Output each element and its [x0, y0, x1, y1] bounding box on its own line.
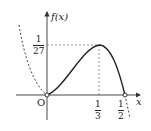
max-value-label: 1 27 — [33, 35, 44, 56]
function-label: f(x) — [51, 12, 68, 22]
tick-num: 1 — [118, 100, 124, 109]
curve-solid — [47, 45, 125, 95]
open-point-half — [123, 93, 127, 97]
tick-den: 3 — [95, 112, 101, 121]
open-point-origin — [45, 93, 49, 97]
function-graph — [0, 0, 151, 131]
max-num: 1 — [36, 35, 42, 44]
x-tick-one-half: 1 2 — [118, 100, 124, 121]
x-axis-label: x — [136, 97, 142, 107]
x-tick-one-third: 1 3 — [95, 100, 101, 121]
curve-dashed-right — [125, 95, 130, 118]
max-den: 27 — [33, 47, 44, 56]
tick-num: 1 — [95, 100, 101, 109]
tick-den: 2 — [118, 112, 124, 121]
origin-label: O — [37, 98, 45, 108]
